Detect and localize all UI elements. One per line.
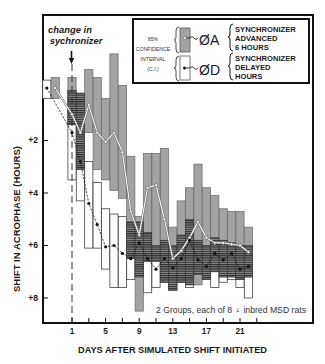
shift-annotation-line2: sychronizer <box>50 35 104 46</box>
delayed-mean-marker <box>213 252 216 255</box>
y-tick-label: +6 <box>28 240 38 250</box>
legend: 95% CONFIDENCE INTERVAL (C.I.) ØA ØD SYN… <box>133 19 309 83</box>
x-tick-label: 5 <box>103 327 108 336</box>
advanced-ci-box <box>118 85 126 198</box>
advanced-ci-box <box>85 70 93 133</box>
legend-delayed-symbol: ØD <box>199 62 220 78</box>
advanced-mean-marker <box>197 220 200 223</box>
delayed-mean-marker <box>196 258 199 261</box>
legend-advanced-desc: ADVANCED <box>235 34 278 43</box>
x-tick-label: 9 <box>137 327 142 336</box>
delayed-mean-marker <box>238 268 241 271</box>
delayed-mean-marker <box>70 131 73 134</box>
advanced-mean-marker <box>104 140 107 143</box>
ci-overlap-region <box>186 219 194 285</box>
delayed-ci-box <box>93 183 101 249</box>
advanced-mean-marker <box>113 131 116 134</box>
filled-dot-marker-icon <box>183 67 186 70</box>
advanced-mean-marker <box>155 184 158 187</box>
delayed-mean-marker <box>154 268 157 271</box>
advanced-mean-marker <box>230 243 233 246</box>
advanced-mean-marker <box>96 131 99 134</box>
advanced-mean-marker <box>146 186 149 189</box>
delayed-mean-marker <box>96 223 99 226</box>
advanced-mean-marker <box>239 244 242 247</box>
advanced-mean-marker <box>138 234 141 237</box>
chart-canvas: change in sychronizer +2 +4 +6 +8 1 5 9 … <box>0 0 325 364</box>
advanced-mean-marker <box>180 249 183 252</box>
legend-advanced-desc: 6 HOURS <box>235 43 269 52</box>
delayed-mean-marker <box>180 257 183 260</box>
delayed-mean-marker <box>104 245 107 248</box>
y-tick-label: +4 <box>28 188 38 198</box>
legend-delayed-desc: HOURS <box>235 72 262 81</box>
delayed-mean-marker <box>230 252 233 255</box>
advanced-mean-marker <box>121 151 124 154</box>
advanced-mean-marker <box>79 131 82 134</box>
delayed-mean-marker <box>146 257 149 260</box>
advanced-mean-marker <box>171 257 174 260</box>
delayed-mean-marker <box>188 239 191 242</box>
advanced-mean-marker <box>247 251 250 254</box>
ci-overlap-region <box>202 246 210 280</box>
ci-overlap-region <box>236 246 244 280</box>
x-tick-label: 1 <box>70 327 75 336</box>
y-axis-title: SHIFT IN ACROPHASE (HOURS) <box>12 146 22 292</box>
advanced-ci-box <box>152 154 160 262</box>
legend-advanced-symbol: ØA <box>199 32 220 48</box>
delayed-mean-marker <box>163 257 166 260</box>
delayed-mean-marker <box>121 252 124 255</box>
x-tick-label: 13 <box>168 327 178 336</box>
legend-delayed-desc: DELAYED <box>235 63 271 72</box>
legend-advanced-desc: SYNCHRONIZER <box>235 25 296 34</box>
x-tick-label: 21 <box>235 327 245 336</box>
delayed-mean-marker <box>79 160 82 163</box>
x-tick-label: 17 <box>202 327 212 336</box>
open-circle-marker-icon <box>184 37 187 40</box>
advanced-mean-marker <box>54 87 57 90</box>
ci-overlap-region <box>152 246 160 262</box>
legend-advanced-box <box>180 28 190 52</box>
advanced-mean-marker <box>129 210 132 213</box>
advanced-mean-marker <box>71 113 74 116</box>
delayed-mean-marker <box>205 265 208 268</box>
delayed-mean-marker <box>222 258 225 261</box>
delayed-mean-marker <box>129 257 132 260</box>
sample-note: 2 Groups, each of 8 ♀ inbred MSD rats <box>156 306 306 315</box>
delayed-mean-marker <box>247 265 250 268</box>
advanced-mean-marker <box>163 218 166 221</box>
delayed-mean-marker <box>112 244 115 247</box>
advanced-ci-box <box>110 54 118 191</box>
legend-ci-label: 95% <box>148 36 159 42</box>
delayed-mean-marker <box>87 202 90 205</box>
delayed-mean-marker <box>171 266 174 269</box>
advanced-mean-marker <box>222 241 225 244</box>
ci-overlap-region <box>144 232 152 261</box>
legend-ci-label: INTERVAL <box>141 56 166 62</box>
ci-overlap-region <box>194 240 202 274</box>
legend-ci-label: CONFIDENCE <box>136 46 171 52</box>
advanced-mean-marker <box>87 104 90 107</box>
y-tick-label: +8 <box>28 293 38 303</box>
legend-ci-label: (C.I.) <box>147 66 159 72</box>
x-axis-title: DAYS AFTER SIMULATED SHIFT INITIATED <box>78 345 267 355</box>
legend-delayed-desc: SYNCHRONIZER <box>235 54 296 63</box>
shift-annotation-line1: change in <box>48 24 92 35</box>
y-tick-label: +2 <box>28 135 38 145</box>
advanced-mean-marker <box>213 241 216 244</box>
delayed-mean-marker <box>138 241 141 244</box>
advanced-mean-marker <box>205 236 208 239</box>
chart-figure: change in sychronizer +2 +4 +6 +8 1 5 9 … <box>0 0 325 364</box>
delayed-ci-box <box>110 214 118 288</box>
delayed-mean-marker <box>45 86 48 89</box>
ci-overlap-region <box>228 243 236 277</box>
